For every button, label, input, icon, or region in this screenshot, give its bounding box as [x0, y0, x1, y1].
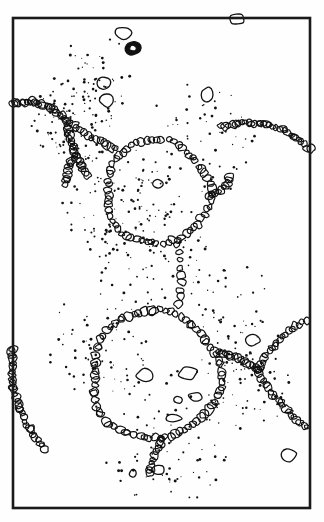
stipple-dot — [121, 95, 122, 96]
canvas-background — [0, 0, 324, 522]
stipple-dot — [120, 381, 121, 382]
stipple-dot — [168, 261, 170, 263]
stipple-dot — [42, 145, 44, 147]
stipple-dot — [204, 248, 207, 251]
stipple-dot — [108, 224, 111, 227]
stipple-dot — [136, 150, 137, 151]
stipple-dot — [217, 342, 219, 344]
stipple-dot — [209, 132, 212, 135]
stipple-dot — [245, 406, 247, 408]
stipple-dot — [128, 75, 131, 78]
stipple-dot — [111, 115, 113, 117]
stipple-dot — [90, 338, 93, 341]
stipple-dot — [101, 360, 103, 362]
stipple-dot — [137, 199, 139, 201]
stipple-dot — [189, 256, 192, 259]
stipple-dot — [122, 291, 125, 294]
stipple-dot — [113, 183, 114, 184]
stipple-dot — [153, 252, 155, 254]
stipple-dot — [85, 357, 87, 359]
stipple-dot — [281, 393, 283, 395]
stipple-dot — [230, 113, 232, 115]
stipple-dot — [242, 407, 244, 409]
stipple-dot — [74, 357, 77, 360]
stipple-dot — [150, 446, 152, 448]
stipple-dot — [172, 275, 175, 278]
stipple-dot — [90, 192, 92, 194]
stipple-dot — [234, 341, 237, 344]
stipple-dot — [82, 67, 83, 68]
stipple-dot — [196, 496, 198, 498]
stipple-dot — [152, 203, 154, 205]
stipple-dot — [140, 185, 142, 187]
stipple-dot — [227, 382, 228, 383]
stipple-dot — [186, 84, 188, 86]
stipple-dot — [90, 123, 93, 126]
stipple-dot — [94, 98, 96, 100]
stipple-dot — [83, 217, 84, 218]
stipple-dot — [98, 151, 101, 154]
stipple-dot — [166, 151, 168, 153]
stipple-dot — [245, 354, 248, 357]
stipple-dot — [142, 170, 144, 172]
stipple-dot — [47, 132, 49, 134]
stipple-dot — [112, 340, 113, 341]
stipple-dot — [236, 405, 237, 406]
stipple-dot — [146, 210, 147, 211]
stipple-dot — [253, 135, 256, 138]
stipple-dot — [111, 284, 114, 287]
stipple-dot — [287, 381, 290, 384]
stipple-dot — [174, 409, 177, 412]
stipple-dot — [209, 484, 210, 485]
stipple-dot — [145, 340, 148, 343]
stipple-dot — [204, 308, 206, 310]
stipple-dot — [236, 369, 237, 370]
stipple-dot — [260, 409, 261, 410]
stipple-dot — [105, 462, 107, 464]
stipple-dot — [273, 377, 276, 380]
stipple-dot — [287, 374, 289, 376]
stipple-dot — [182, 451, 184, 453]
stipple-dot — [257, 389, 259, 391]
stipple-dot — [218, 319, 220, 321]
stipple-dot — [249, 353, 250, 354]
stipple-dot — [225, 361, 228, 364]
stipple-dot — [130, 199, 133, 202]
stipple-dot — [48, 134, 49, 135]
stipple-dot — [63, 151, 66, 154]
stipple-dot — [185, 108, 188, 111]
stipple-dot — [214, 100, 216, 102]
stipple-dot — [196, 260, 197, 261]
stipple-dot — [246, 266, 248, 268]
stipple-dot — [102, 62, 104, 64]
stipple-dot — [137, 381, 140, 384]
stipple-dot — [118, 43, 120, 45]
stipple-dot — [94, 78, 96, 80]
stipple-dot — [153, 427, 154, 428]
stipple-dot — [89, 100, 91, 102]
stipple-dot — [126, 368, 128, 370]
stipple-dot — [82, 96, 84, 98]
stipple-dot — [118, 461, 121, 464]
stipple-dot — [71, 333, 73, 335]
stipple-dot — [251, 374, 254, 377]
stipple-dot — [163, 218, 165, 220]
stipple-dot — [208, 362, 211, 365]
stipple-dot — [208, 394, 210, 396]
stipple-dot — [245, 161, 247, 163]
stipple-dot — [82, 374, 85, 377]
stipple-dot — [228, 338, 230, 340]
stipple-dot — [188, 443, 189, 444]
stipple-dot — [187, 138, 189, 140]
stipple-dot — [124, 388, 125, 389]
stipple-dot — [136, 494, 138, 496]
stipple-dot — [196, 276, 197, 277]
stipple-dot — [79, 203, 80, 204]
stipple-dot — [136, 429, 138, 431]
stipple-dot — [217, 280, 220, 283]
stipple-dot — [218, 422, 220, 424]
stipple-dot — [170, 424, 171, 425]
stipple-dot — [233, 166, 236, 169]
stipple-dot — [108, 230, 111, 233]
stipple-dot — [93, 67, 94, 68]
